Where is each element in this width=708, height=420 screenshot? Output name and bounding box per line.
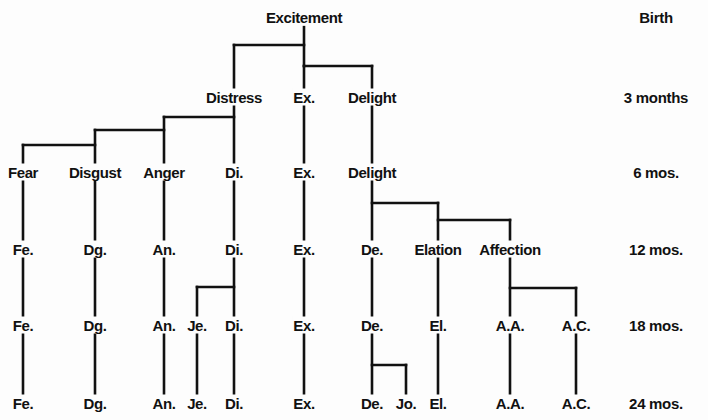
emotion-node-de-18: De.	[360, 317, 384, 334]
emotion-node-distress-3: Distress	[205, 89, 263, 106]
emotion-node-jo-24: Jo.	[395, 395, 417, 412]
emotion-node-anger-6: Anger	[142, 164, 185, 181]
emotion-node-de-24: De.	[360, 395, 384, 412]
emotion-node-elation-12: Elation	[413, 241, 462, 258]
emotion-node-el-24: El.	[428, 395, 447, 412]
emotion-node-ex-18: Ex.	[292, 317, 315, 334]
emotion-node-di-18: Di.	[224, 317, 244, 334]
emotion-node-ex-6: Ex.	[292, 164, 315, 181]
emotion-node-aa-18: A.A.	[495, 317, 525, 334]
emotion-node-delight-3: Delight	[347, 89, 397, 106]
emotion-node-ex-3: Ex.	[292, 89, 315, 106]
emotion-node-fe-24: Fe.	[12, 395, 34, 412]
emotion-node-ac-18: A.C.	[561, 317, 591, 334]
emotion-node-an-18: An.	[152, 317, 177, 334]
age-label: 12 mos.	[629, 241, 683, 258]
emotion-node-di-12: Di.	[224, 241, 244, 258]
age-label: 18 mos.	[629, 317, 683, 334]
emotion-node-an-24: An.	[152, 395, 177, 412]
emotion-node-je-24: Je.	[186, 395, 208, 412]
emotion-node-dg-12: Dg.	[83, 241, 108, 258]
emotion-node-di-24: Di.	[224, 395, 244, 412]
emotion-differentiation-diagram: ExcitementDistressEx.DelightFearDisgustA…	[0, 0, 708, 420]
age-label: 6 mos.	[633, 164, 679, 181]
emotion-node-fear-6: Fear	[7, 164, 39, 181]
emotion-node-fe-18: Fe.	[12, 317, 34, 334]
emotion-node-fe-12: Fe.	[12, 241, 34, 258]
emotion-node-di-6: Di.	[224, 164, 244, 181]
tree-connector-lines	[0, 0, 708, 420]
emotion-node-excitement: Excitement	[265, 9, 343, 26]
emotion-node-delight-6: Delight	[347, 164, 397, 181]
emotion-node-ex-24: Ex.	[292, 395, 315, 412]
age-label: 24 mos.	[629, 395, 683, 412]
emotion-node-el-18: El.	[428, 317, 447, 334]
emotion-node-dg-18: Dg.	[83, 317, 108, 334]
age-label: Birth	[639, 9, 673, 26]
emotion-node-je-18: Je.	[186, 317, 208, 334]
emotion-node-disgust-6: Disgust	[68, 164, 122, 181]
emotion-node-dg-24: Dg.	[83, 395, 108, 412]
emotion-node-ac-24: A.C.	[561, 395, 591, 412]
emotion-node-an-12: An.	[152, 241, 177, 258]
emotion-node-de-12: De.	[360, 241, 384, 258]
emotion-node-aa-24: A.A.	[495, 395, 525, 412]
age-label: 3 months	[624, 89, 688, 106]
emotion-node-ex-12: Ex.	[292, 241, 315, 258]
emotion-node-affection-12: Affection	[478, 241, 541, 258]
